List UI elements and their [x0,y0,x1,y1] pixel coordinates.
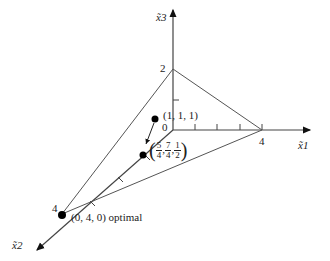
point-111-label: (1, 1, 1) [163,110,198,121]
x2-axis-label: x̃2 [12,240,22,251]
point-optimal [58,211,66,219]
point-optimal-label: (0, 4, 0) optimal [71,212,142,223]
x3-tick-2: 2 [160,63,166,74]
origin-label: 0 [162,122,168,133]
x3-axis-label: x̃3 [156,12,166,23]
x2-tick-4: 4 [52,203,58,214]
point-frac [140,152,147,159]
x1-tick-4: 4 [259,136,265,147]
point-111 [152,116,159,123]
point-frac-label: (54,74,12) [149,140,187,160]
x1-axis-label: x̃1 [298,140,308,151]
